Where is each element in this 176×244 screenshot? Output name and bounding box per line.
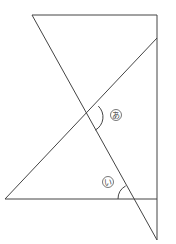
long-diagonal-line <box>32 15 157 240</box>
angle-i-text: い <box>104 178 112 187</box>
angle-a-text: あ <box>112 111 120 120</box>
angle-a-arc <box>95 106 103 130</box>
angle-a-label: あ <box>111 110 122 121</box>
angle-i-arc <box>118 186 126 199</box>
angle-i-label: い <box>103 177 114 188</box>
geometry-diagram: あ い <box>0 0 176 244</box>
rising-diagonal-line <box>5 38 157 199</box>
